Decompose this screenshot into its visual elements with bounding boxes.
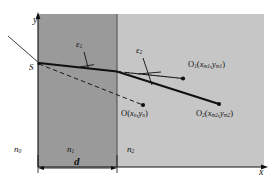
axis-y-label: y (33, 14, 37, 25)
dot-O2 (217, 102, 221, 106)
label-n0-sub: 0 (19, 148, 22, 154)
dot-O (141, 103, 145, 107)
point-O2-label: O2(xm2,ym2) (196, 108, 233, 118)
diagram-canvas (0, 0, 274, 181)
label-thickness-d: d (74, 155, 80, 167)
angle-epsilon-1-label: ε1 (76, 39, 82, 49)
dot-S (37, 62, 40, 65)
incident-ray (8, 36, 39, 63)
label-n2: n2 (127, 144, 134, 154)
point-O1-label: O1(xm1,ym1) (188, 59, 225, 69)
point-O-label: O(xn,yn) (121, 108, 148, 118)
dot-O1 (181, 76, 185, 80)
point-O-paren-close: ) (145, 108, 148, 118)
point-O2-paren-close: ) (230, 108, 233, 118)
label-n1: n1 (67, 144, 74, 154)
label-n0: n0 (14, 144, 21, 154)
axis-x-label: x (259, 166, 263, 177)
epsilon-1-sub: 1 (80, 43, 83, 49)
epsilon-2-sub: 2 (140, 49, 143, 55)
angle-epsilon-2-label: ε2 (136, 45, 142, 55)
label-n2-sub: 2 (132, 148, 135, 154)
point-O1-paren-close: ) (222, 59, 225, 69)
label-source-S: S (29, 62, 34, 72)
label-n1-sub: 1 (72, 148, 75, 154)
optics-diagram: y x n0 n1 n2 d S ε1 ε2 O(xn,yn) O1(xm1,y… (0, 0, 274, 181)
